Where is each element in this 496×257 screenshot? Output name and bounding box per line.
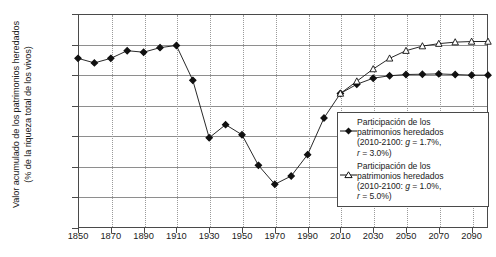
- x-tick-mark: [242, 228, 243, 233]
- legend-1-line4-post: = 5.0%): [360, 191, 392, 201]
- legend-1-line3-pre: (2010-2100:: [357, 181, 405, 191]
- x-tick-mark: [472, 228, 473, 233]
- y-tick-mark: [72, 75, 78, 76]
- x-tick-mark: [209, 228, 210, 233]
- gridline-horizontal: [79, 75, 487, 76]
- chart-legend: Participación de los patrimonios heredad…: [337, 112, 489, 207]
- y-axis-title-line1: Valor acumulado de los patrimonios hered…: [11, 1, 23, 229]
- x-tick-mark: [373, 228, 374, 233]
- y-tick-mark: [72, 14, 78, 15]
- legend-marker-filled-diamond-icon: [340, 117, 357, 139]
- x-tick-mark: [111, 228, 112, 233]
- gridline-vertical: [309, 15, 311, 227]
- x-tick-mark: [439, 228, 440, 233]
- x-tick-mark: [308, 228, 309, 233]
- x-tick-mark: [78, 228, 79, 233]
- legend-1-line3-mid: = 1.0%,: [410, 181, 441, 191]
- chart-root: Valor acumulado de los patrimonios hered…: [0, 0, 496, 257]
- gridline-vertical: [276, 15, 278, 227]
- y-tick-mark: [72, 136, 78, 137]
- y-axis-title-line2: (% de la riqueza total de los vivos): [22, 1, 34, 229]
- x-tick-mark: [340, 228, 341, 233]
- x-tick-mark: [176, 228, 177, 233]
- x-tick-mark: [275, 228, 276, 233]
- y-tick-mark: [72, 197, 78, 198]
- legend-1-line1: Participación de los: [357, 161, 431, 171]
- x-tick-mark: [406, 228, 407, 233]
- x-tick-mark: [144, 228, 145, 233]
- legend-label-0: Participación de los patrimonios heredad…: [357, 117, 443, 158]
- legend-0-line1: Participación de los: [357, 117, 431, 127]
- legend-entry-0: Participación de los patrimonios heredad…: [340, 117, 485, 158]
- gridline-vertical: [177, 15, 179, 227]
- x-tick-label: 2090: [452, 232, 492, 241]
- y-tick-mark: [72, 167, 78, 168]
- gridline-vertical: [243, 15, 245, 227]
- y-tick-mark: [72, 106, 78, 107]
- gridline-vertical: [145, 15, 147, 227]
- legend-entry-1: Participación de los patrimonios heredad…: [340, 161, 485, 202]
- legend-0-line3-pre: (2010-2100:: [357, 137, 405, 147]
- legend-1-line2: patrimonios heredados: [357, 171, 443, 181]
- gridline-vertical: [210, 15, 212, 227]
- gridline-horizontal: [79, 45, 487, 46]
- gridline-horizontal: [79, 106, 487, 107]
- legend-0-line2: patrimonios heredados: [357, 127, 443, 137]
- legend-0-line4-post: = 3.0%): [360, 148, 392, 158]
- y-tick-mark: [72, 45, 78, 46]
- y-axis-title: Valor acumulado de los patrimonios hered…: [11, 1, 34, 229]
- legend-label-1: Participación de los patrimonios heredad…: [357, 161, 443, 202]
- gridline-vertical: [112, 15, 114, 227]
- legend-0-line3-mid: = 1.7%,: [410, 137, 441, 147]
- legend-marker-hollow-triangle-icon: [340, 161, 357, 183]
